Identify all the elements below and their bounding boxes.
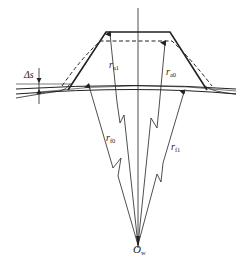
radius-rf0 <box>89 86 138 245</box>
label-delta-s: Δs <box>23 69 34 80</box>
label-rf0: rf0 <box>106 132 115 144</box>
label-ra0: ra0 <box>166 66 176 78</box>
root-circle-lower <box>16 90 236 95</box>
label-center-ow: Ow <box>133 243 146 256</box>
delta-s-arrow-bottom <box>37 89 42 94</box>
label-ra1: ra1 <box>109 59 119 71</box>
tooth-profile-solid <box>68 32 207 90</box>
label-rf1: rf1 <box>171 141 180 153</box>
gear-tooth-diagram: ra1 ra0 rf0 rf1 Δs Ow <box>0 0 248 268</box>
radius-rf1 <box>138 92 184 245</box>
delta-s-arrow-top <box>37 78 42 83</box>
radius-ra0 <box>138 43 165 245</box>
